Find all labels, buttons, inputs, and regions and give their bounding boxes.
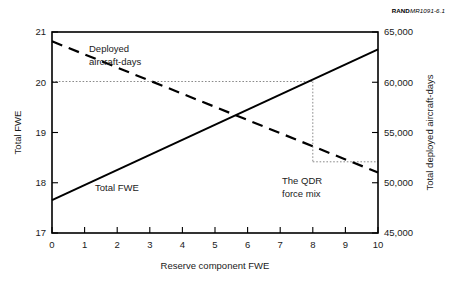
x-tick-label-7: 7 [278,239,283,250]
x-tick-label-3: 3 [147,239,152,250]
reference-lines [52,82,378,162]
chart-annotations: Deployed aircraft-days Total FWE The QDR… [89,43,322,200]
y-axis-left-title: Total FWE [12,111,23,155]
figure-container: RANDMR1091-6.1 17 18 19 20 21 [0,0,451,282]
y-axis-left-ticks [52,32,58,233]
x-axis-ticks [52,227,378,233]
line-chart: 17 18 19 20 21 Total FWE 45,000 50,000 5… [0,0,451,282]
y-axis-left-labels: 17 18 19 20 21 [35,26,46,238]
x-tick-label-9: 9 [343,239,348,250]
y-tick-label-0: 17 [35,227,46,238]
x-tick-label-6: 6 [245,239,250,250]
series-total-fwe-line [52,49,378,200]
x-tick-label-4: 4 [180,239,185,250]
y-axis-right-ticks [372,32,378,233]
x-axis-labels: 0 1 2 3 4 5 6 7 8 9 10 [49,239,383,250]
y2-tick-label-2: 55,000 [384,127,413,138]
annotation-deployed-aircraft-days-line2: aircraft-days [89,56,142,67]
annotation-qdr-force-mix-line1: The QDR [282,175,322,186]
y-tick-label-2: 19 [35,127,46,138]
y2-tick-label-4: 65,000 [384,26,413,37]
y2-tick-label-0: 45,000 [384,227,413,238]
annotation-deployed-aircraft-days-line1: Deployed [89,43,129,54]
y-axis-right-title: Total deployed aircraft-days [424,74,435,190]
x-tick-label-10: 10 [373,239,384,250]
x-tick-label-8: 8 [310,239,315,250]
x-tick-label-1: 1 [82,239,87,250]
y-axis-right-labels: 45,000 50,000 55,000 60,000 65,000 [384,26,413,238]
x-axis-title: Reserve component FWE [161,260,270,271]
annotation-total-fwe: Total FWE [95,182,139,193]
y-tick-label-1: 18 [35,177,46,188]
y2-tick-label-1: 50,000 [384,177,413,188]
annotation-qdr-force-mix-line2: force mix [282,188,321,199]
x-tick-label-0: 0 [49,239,54,250]
x-tick-label-5: 5 [212,239,217,250]
y-tick-label-3: 20 [35,77,46,88]
x-tick-label-2: 2 [115,239,120,250]
y-tick-label-4: 21 [35,26,46,37]
y2-tick-label-3: 60,000 [384,77,413,88]
